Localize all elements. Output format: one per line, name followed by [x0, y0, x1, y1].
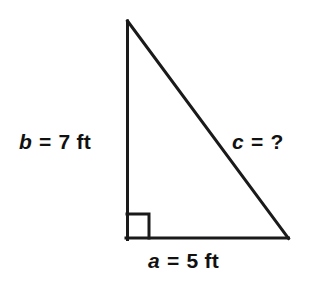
label-leg-a-value: 5: [187, 249, 199, 272]
label-leg-b-unit: ft: [77, 130, 91, 153]
label-hypotenuse-c-variable: c: [232, 130, 244, 153]
label-hypotenuse-c: c = ?: [232, 131, 283, 152]
right-angle-square-icon: [127, 214, 149, 238]
label-hypotenuse-c-value: ?: [270, 130, 283, 153]
label-leg-b-equals: =: [38, 130, 52, 153]
label-hypotenuse-c-equals: =: [250, 130, 264, 153]
diagram-canvas: b = 7 ft c = ? a = 5 ft: [0, 0, 315, 286]
label-leg-a-unit: ft: [205, 249, 219, 272]
label-leg-a: a = 5 ft: [0, 250, 315, 271]
label-leg-b-variable: b: [19, 130, 32, 153]
label-leg-b: b = 7 ft: [19, 131, 91, 152]
label-leg-b-value: 7: [59, 130, 71, 153]
label-leg-a-variable: a: [148, 249, 160, 272]
label-leg-a-equals: =: [166, 249, 180, 272]
